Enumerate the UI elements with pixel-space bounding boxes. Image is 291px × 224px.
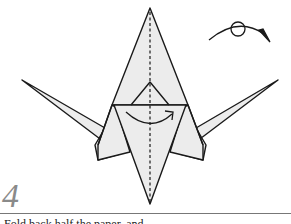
caption: Fold back half the paper, and... [4, 216, 289, 224]
divider [0, 213, 291, 214]
origami-diagram [0, 0, 291, 224]
step-number: 4 [2, 181, 19, 211]
turn-over-arrow-icon [209, 22, 270, 42]
